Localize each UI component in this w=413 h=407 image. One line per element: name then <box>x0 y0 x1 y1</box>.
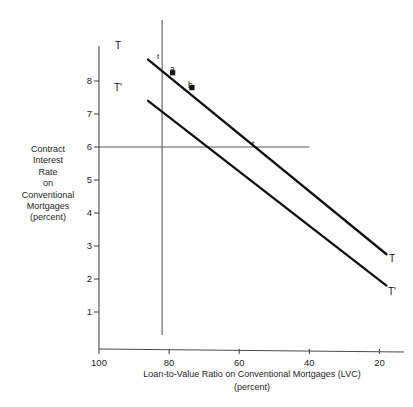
x-axis-line <box>99 349 404 352</box>
x-tick-label: 20 <box>374 357 385 368</box>
x-tick-label: 40 <box>304 357 315 368</box>
curve-group <box>148 60 386 286</box>
y-tick-label: 5 <box>87 174 92 185</box>
figure-caption-partial <box>8 396 248 406</box>
plot-area: 12345678 10080604020 T T T' T' a b t t L… <box>0 0 413 407</box>
curve-label-group: T T T' T' a b t t <box>114 40 396 297</box>
x-axis-title: Loan-to-Value Ratio on Conventional Mort… <box>143 369 360 379</box>
y-tick-label: 4 <box>87 207 92 218</box>
y-tick-label: 2 <box>87 273 92 284</box>
x-tick-label: 80 <box>164 357 175 368</box>
curve-T-right-label: T <box>389 253 395 264</box>
y-tick-group: 12345678 <box>87 75 99 317</box>
curve-T-left-label: T <box>115 40 121 51</box>
y-tick-label: 3 <box>87 240 92 251</box>
y-tick-label: 8 <box>87 75 92 86</box>
curve-T-prime-left-label: T' <box>114 82 122 93</box>
curve-T-prime-right-label: T' <box>388 286 396 297</box>
y-tick-label: 7 <box>87 108 92 119</box>
x-tick-label: 100 <box>91 357 107 368</box>
x-axis-units: (percent) <box>234 382 270 392</box>
curve-T <box>148 60 386 255</box>
x-axis-title-group: Loan-to-Value Ratio on Conventional Mort… <box>143 369 360 392</box>
y-tick-label: 1 <box>87 306 92 317</box>
reference-line-group <box>99 20 309 335</box>
x-tick-label: 60 <box>234 357 245 368</box>
axes <box>99 46 404 352</box>
chart-figure: Contract Interest Rate on Conventional M… <box>0 0 413 407</box>
data-point-a-label: a <box>170 64 175 74</box>
y-tick-label: 6 <box>87 141 92 152</box>
data-point-b-label: b <box>188 80 193 90</box>
curve-T-prime <box>148 101 386 286</box>
annotation-t-upper-label: t <box>157 52 160 61</box>
